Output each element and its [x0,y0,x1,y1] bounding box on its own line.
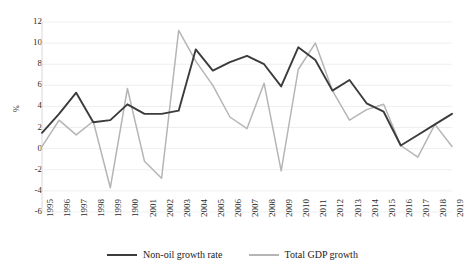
x-axis-tick-labels: 1995199619971998199919002001200220032004… [0,0,465,276]
x-tick-label: 1996 [63,199,72,217]
legend-item[interactable]: Total GDP growth [249,249,358,260]
x-tick-label: 2007 [251,199,260,217]
x-tick-label: 2012 [336,199,345,217]
x-tick-label: 2004 [200,199,209,217]
legend-line-icon [107,254,137,256]
legend-line-icon [249,254,279,256]
x-tick-label: 2013 [354,199,363,217]
x-tick-label: 2014 [371,199,380,217]
x-tick-label: 2017 [422,199,431,217]
x-tick-label: 2019 [456,199,465,217]
x-tick-label: 1900 [131,199,140,217]
x-tick-label: 1998 [97,199,106,217]
x-tick-label: 2011 [319,199,328,217]
x-tick-label: 1995 [46,199,55,217]
x-tick-label: 2018 [439,199,448,217]
legend-item[interactable]: Non-oil growth rate [107,249,222,260]
x-tick-label: 1997 [80,199,89,217]
x-tick-label: 2001 [149,199,158,217]
x-tick-label: 2006 [234,199,243,217]
x-tick-label: 1999 [114,199,123,217]
legend-label: Non-oil growth rate [143,249,222,260]
x-tick-label: 2003 [183,199,192,217]
x-tick-label: 2008 [268,199,277,217]
legend-label: Total GDP growth [285,249,358,260]
x-tick-label: 2015 [388,199,397,217]
x-tick-label: 2009 [285,199,294,217]
x-tick-label: 2002 [166,199,175,217]
growth-rate-line-chart: % 121086420-2-4-6 1995199619971998199919… [0,0,465,276]
chart-legend: Non-oil growth rateTotal GDP growth [0,249,465,260]
x-tick-label: 2010 [302,199,311,217]
x-tick-label: 2005 [217,199,226,217]
x-tick-label: 2016 [405,199,414,217]
